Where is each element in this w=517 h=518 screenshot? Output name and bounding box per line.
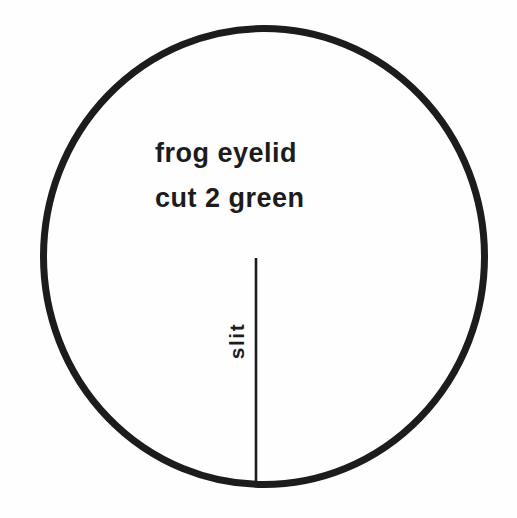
pattern-label-line2: cut 2 green	[155, 176, 305, 221]
pattern-diagram: frog eyelid cut 2 green slit	[0, 0, 517, 518]
eyelid-circle-outline	[44, 29, 485, 485]
pattern-label: frog eyelid cut 2 green	[155, 131, 305, 221]
slit-label: slit	[225, 323, 249, 359]
pattern-shapes	[0, 0, 517, 518]
pattern-label-line1: frog eyelid	[155, 131, 305, 176]
